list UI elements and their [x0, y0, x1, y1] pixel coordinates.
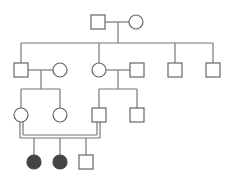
affected-female-symbol-IV-1	[27, 155, 41, 169]
sibship-II	[21, 43, 213, 63]
sibship-III	[21, 89, 137, 108]
generation-4	[27, 138, 93, 169]
female-symbol-II-1-spouse	[53, 63, 67, 77]
female-symbol-I-2	[129, 15, 143, 29]
male-symbol-III-4	[130, 108, 144, 122]
male-symbol-III-3	[92, 108, 106, 122]
male-symbol-IV-3	[79, 155, 93, 169]
female-symbol-III-1	[14, 108, 28, 122]
male-symbol-II-2-spouse	[130, 63, 144, 77]
male-symbol-I-1	[91, 15, 105, 29]
generation-3	[14, 108, 144, 122]
pedigree-diagram	[0, 0, 235, 179]
male-symbol-II-1	[14, 63, 28, 77]
generation-2	[14, 63, 220, 89]
male-symbol-II-4	[206, 63, 220, 77]
generation-1	[91, 15, 143, 43]
female-symbol-II-2	[92, 63, 106, 77]
affected-female-symbol-IV-2	[53, 155, 67, 169]
male-symbol-II-3	[168, 63, 182, 77]
consanguineous-mating-line	[20, 122, 100, 138]
female-symbol-III-2	[53, 108, 67, 122]
